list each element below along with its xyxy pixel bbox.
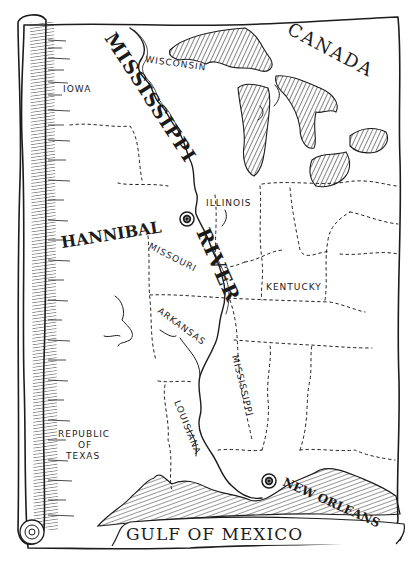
lake-erie	[310, 152, 350, 187]
lake-huron	[276, 76, 338, 149]
lake-ontario	[350, 129, 388, 153]
lake-michigan	[238, 84, 270, 176]
state-borders	[70, 124, 398, 490]
label-missouri: MISSOURI	[147, 241, 198, 274]
label-gulf-of-mexico: GULF OF MEXICO	[126, 524, 303, 544]
new-orleans-marker[interactable]	[262, 474, 276, 488]
scroll-roll	[18, 15, 74, 544]
label-iowa: IOWA	[63, 84, 91, 94]
label-canada: CANADA	[284, 18, 378, 81]
mississippi-river-map: MISSISSIPPI RIVER CANADA WISCONSIN IOWA …	[0, 0, 418, 571]
parchment-border	[21, 17, 401, 549]
label-texas-line1: REPUBLIC	[58, 429, 110, 439]
hannibal-marker[interactable]	[180, 212, 194, 226]
scroll-curl-icon	[20, 520, 44, 544]
label-louisiana: LOUISIANA	[172, 399, 203, 456]
label-texas-line2: OF	[78, 440, 92, 450]
label-kentucky: KENTUCKY	[266, 282, 322, 292]
label-texas-line3: TEXAS	[65, 451, 100, 461]
label-illinois: ILLINOIS	[206, 198, 252, 208]
label-hannibal[interactable]: HANNIBAL	[60, 217, 163, 252]
label-mississippi-state: MISSISSIPPI	[230, 354, 255, 418]
